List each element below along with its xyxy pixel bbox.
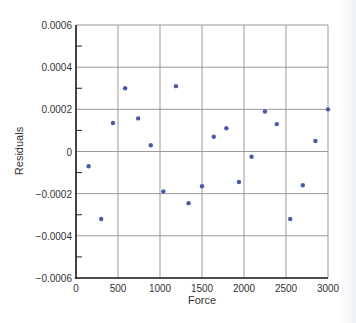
data-point (326, 107, 330, 111)
x-tick-label: 0 (73, 283, 79, 294)
scatter-chart: 0.00060.00040.00020−0.0002−0.0004−0.0006… (0, 0, 356, 323)
y-tick-labels: 0.00060.00040.00020−0.0002−0.0004−0.0006 (36, 20, 73, 284)
grid-lines (76, 25, 328, 278)
x-tick-label: 2500 (275, 283, 298, 294)
data-point (111, 121, 115, 125)
data-point (275, 122, 279, 126)
data-point (174, 84, 178, 88)
data-point (249, 155, 253, 159)
y-tick-label: 0 (66, 147, 72, 158)
y-tick-label: 0.0006 (41, 20, 72, 31)
x-tick-label: 1500 (191, 283, 214, 294)
y-tick-label: 0.0002 (41, 104, 72, 115)
y-tick-label: −0.0006 (36, 273, 73, 284)
data-point (224, 126, 228, 130)
x-axis-label: Force (188, 294, 216, 306)
data-point (200, 184, 204, 188)
data-point (301, 183, 305, 187)
data-points (86, 84, 330, 221)
data-point (136, 116, 140, 120)
x-tick-label: 3000 (317, 283, 340, 294)
x-tick-label: 500 (110, 283, 127, 294)
x-tick-label: 2000 (233, 283, 256, 294)
data-point (237, 180, 241, 184)
data-point (288, 217, 292, 221)
x-tick-labels: 050010001500200025003000 (73, 283, 339, 294)
data-point (123, 86, 127, 90)
data-point (186, 201, 190, 205)
y-tick-label: 0.0004 (41, 62, 72, 73)
data-point (263, 109, 267, 113)
y-tick-label: −0.0002 (36, 189, 73, 200)
y-tick-label: −0.0004 (36, 231, 73, 242)
data-point (86, 164, 90, 168)
y-axis-label: Residuals (13, 126, 25, 175)
data-point (99, 217, 103, 221)
data-point (161, 189, 165, 193)
data-point (212, 135, 216, 139)
data-point (313, 139, 317, 143)
x-tick-label: 1000 (149, 283, 172, 294)
data-point (149, 143, 153, 147)
